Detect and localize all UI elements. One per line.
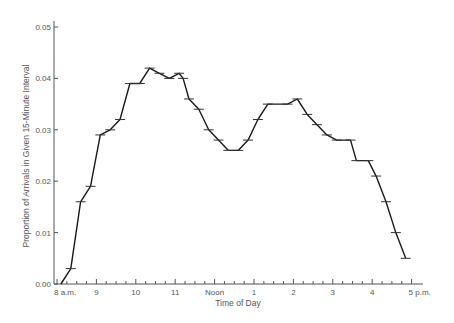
x-tick-label: 4 (370, 288, 375, 297)
x-tick-label: 9 (94, 288, 99, 297)
y-tick-label: 0.02 (35, 177, 51, 186)
x-tick-label: 3 (331, 288, 336, 297)
y-tick-label: 0.00 (35, 280, 51, 289)
y-axis: 0.000.010.020.030.040.05 (35, 21, 58, 289)
line-chart: 0.000.010.020.030.040.05 8 a.m.91011Noon… (0, 0, 454, 323)
y-tick-label: 0.01 (35, 229, 51, 238)
x-tick-label: 11 (171, 288, 180, 297)
y-tick-label: 0.03 (35, 126, 51, 135)
y-tick-label: 0.04 (35, 74, 51, 83)
x-axis: 8 a.m.91011Noon12345 p.m. (54, 279, 431, 297)
arrivals-series (61, 68, 411, 284)
y-tick-label: 0.05 (35, 23, 51, 32)
x-tick-label: 2 (291, 288, 296, 297)
y-axis-title: Proportion of Arrivals in Given 15-Minut… (21, 64, 31, 247)
series-line (61, 68, 406, 284)
x-tick-label: 10 (131, 288, 140, 297)
x-axis-title: Time of Day (215, 298, 261, 308)
x-tick-label: 5 p.m. (409, 288, 431, 297)
x-tick-label: 8 a.m. (54, 288, 76, 297)
x-tick-label: 1 (252, 288, 257, 297)
x-tick-label: Noon (205, 288, 224, 297)
